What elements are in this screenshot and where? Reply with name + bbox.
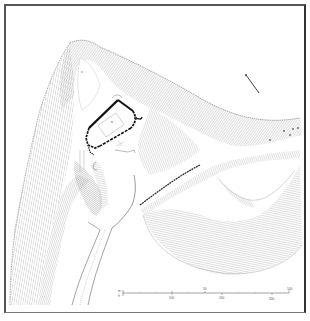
scale-tick-ft-100: 100	[169, 296, 175, 300]
hill-slope-west	[10, 43, 74, 305]
scale-tick-ft-200: 200	[219, 296, 225, 300]
scale-tick-m-50: 50	[203, 287, 207, 291]
bailey-scarp	[74, 160, 108, 216]
scale-tick-ft-300: 300	[269, 297, 275, 301]
scale-tick-m-100: 100	[287, 287, 293, 291]
north-arrow-icon	[245, 74, 259, 93]
valley-slope-south	[143, 165, 302, 275]
scale-bar: m ft 50 100 100 200 300	[118, 287, 293, 301]
site-plan: m ft 50 100 100 200 300	[0, 0, 310, 321]
plateau	[78, 58, 100, 110]
scale-unit-imperial: ft	[118, 294, 120, 298]
scale-unit-metric: m	[118, 289, 121, 293]
castle-walls	[86, 95, 142, 155]
